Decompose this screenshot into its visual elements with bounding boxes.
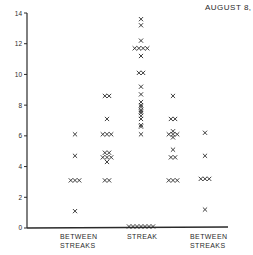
plot-area <box>0 0 253 255</box>
x-marker <box>107 94 111 98</box>
x-marker <box>145 46 149 50</box>
y-tick-label: 14 <box>8 10 22 17</box>
x-marker <box>139 54 143 58</box>
x-marker <box>103 151 107 155</box>
x-marker <box>141 46 145 50</box>
chart-title: AUGUST 8, <box>205 3 252 12</box>
x-marker <box>167 178 171 182</box>
x-marker <box>105 117 109 121</box>
y-tick-label: 12 <box>8 40 22 47</box>
x-marker <box>199 177 203 181</box>
x-marker <box>171 94 175 98</box>
x-marker <box>109 132 113 136</box>
x-marker <box>173 117 177 121</box>
x-marker <box>203 207 207 211</box>
x-marker <box>139 117 143 121</box>
x-marker <box>169 117 173 121</box>
x-marker <box>101 132 105 136</box>
x-marker <box>107 178 111 182</box>
x-marker <box>105 160 109 164</box>
x-marker <box>77 178 81 182</box>
x-marker <box>133 46 137 50</box>
x-marker <box>139 23 143 27</box>
x-marker <box>73 132 77 136</box>
y-tick-label: 8 <box>8 102 22 109</box>
x-marker <box>139 17 143 21</box>
x-marker <box>139 85 143 89</box>
x-marker <box>69 178 73 182</box>
x-marker <box>175 178 179 182</box>
x-marker <box>103 178 107 182</box>
x-marker <box>139 39 143 43</box>
x-marker <box>73 209 77 213</box>
x-marker <box>141 71 145 75</box>
x-marker <box>171 178 175 182</box>
y-tick-label: 4 <box>8 163 22 170</box>
y-tick-label: 2 <box>8 194 22 201</box>
x-marker <box>171 148 175 152</box>
x-label-between-streaks-right: BETWEEN STREAKS <box>190 232 227 250</box>
x-marker <box>105 132 109 136</box>
x-marker <box>105 155 109 159</box>
x-marker <box>139 92 143 96</box>
x-marker <box>137 46 141 50</box>
x-marker <box>173 155 177 159</box>
x-marker <box>101 155 105 159</box>
x-label-between-streaks-left: BETWEEN STREAKS <box>60 232 97 250</box>
x-marker <box>73 178 77 182</box>
x-marker <box>203 131 207 135</box>
x-marker <box>175 132 179 136</box>
x-marker <box>139 132 143 136</box>
y-tick-label: 0 <box>8 224 22 231</box>
x-marker <box>137 71 141 75</box>
x-marker <box>103 94 107 98</box>
x-marker <box>107 151 111 155</box>
x-marker <box>171 135 175 139</box>
x-marker <box>109 155 113 159</box>
x-marker <box>169 155 173 159</box>
x-marker <box>203 177 207 181</box>
x-marker <box>139 100 143 104</box>
x-label-streak: STREAK <box>127 232 157 241</box>
x-marker <box>207 177 211 181</box>
x-marker <box>73 154 77 158</box>
scatter-chart: AUGUST 8, 0 2 4 6 8 10 12 14 BETWEEN STR… <box>0 0 253 255</box>
x-marker <box>167 132 171 136</box>
x-marker <box>203 154 207 158</box>
y-tick-label: 6 <box>8 132 22 139</box>
y-tick-label: 10 <box>8 71 22 78</box>
